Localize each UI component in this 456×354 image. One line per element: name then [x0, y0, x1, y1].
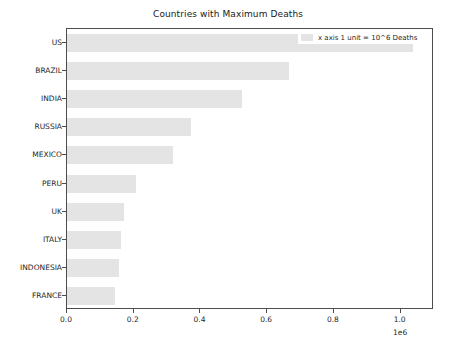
- x-tick-mark: [199, 309, 200, 313]
- legend-swatch-icon: [301, 34, 313, 41]
- y-tick-mark: [62, 42, 66, 43]
- bar-peru: [67, 175, 136, 193]
- bar-row: [67, 287, 432, 305]
- y-tick-mark: [62, 70, 66, 71]
- bar-uk: [67, 203, 124, 221]
- x-tick-mark: [400, 309, 401, 313]
- x-tick-label: 0.4: [179, 315, 219, 324]
- bar-row: [67, 203, 432, 221]
- x-tick-label: 1.0: [380, 315, 420, 324]
- bar-france: [67, 287, 115, 305]
- y-tick-mark: [62, 98, 66, 99]
- bar-row: [67, 62, 432, 80]
- bar-row: [67, 90, 432, 108]
- y-tick-mark: [62, 126, 66, 127]
- x-axis-offset-label: 1e6: [393, 328, 443, 337]
- bar-india: [67, 90, 242, 108]
- x-tick-label: 0.8: [313, 315, 353, 324]
- plot-area: [66, 28, 433, 309]
- x-tick-mark: [66, 309, 67, 313]
- x-tick-mark: [266, 309, 267, 313]
- bar-row: [67, 259, 432, 277]
- y-tick-mark: [62, 267, 66, 268]
- bar-row: [67, 118, 432, 136]
- bar-italy: [67, 231, 121, 249]
- bar-indonesia: [67, 259, 119, 277]
- bar-row: [67, 175, 432, 193]
- page-title: Countries with Maximum Deaths: [0, 9, 456, 19]
- y-tick-label: US: [0, 38, 62, 47]
- y-tick-label: MEXICO: [0, 150, 62, 159]
- y-tick-label: INDONESIA: [0, 263, 62, 272]
- x-tick-label: 0.2: [113, 315, 153, 324]
- y-tick-label: UK: [0, 207, 62, 216]
- legend-entry-label: x axis 1 unit = 10^6 Deaths: [318, 34, 417, 42]
- y-tick-mark: [62, 154, 66, 155]
- x-tick-label: 0.6: [246, 315, 286, 324]
- y-tick-label: PERU: [0, 179, 62, 188]
- y-tick-mark: [62, 211, 66, 212]
- bar-row: [67, 146, 432, 164]
- chart-legend: x axis 1 unit = 10^6 Deaths: [298, 31, 420, 44]
- y-tick-label: RUSSIA: [0, 122, 62, 131]
- y-tick-mark: [62, 239, 66, 240]
- bar-series: [67, 29, 432, 308]
- y-tick-label: INDIA: [0, 94, 62, 103]
- bar-brazil: [67, 62, 289, 80]
- bar-mexico: [67, 146, 173, 164]
- chart-figure: Countries with Maximum Deaths FRANCEINDO…: [0, 0, 456, 354]
- y-tick-label: FRANCE: [0, 291, 62, 300]
- y-tick-label: ITALY: [0, 235, 62, 244]
- y-tick-mark: [62, 295, 66, 296]
- x-tick-mark: [333, 309, 334, 313]
- bar-russia: [67, 118, 191, 136]
- y-tick-mark: [62, 183, 66, 184]
- y-tick-label: BRAZIL: [0, 66, 62, 75]
- x-tick-label: 0.0: [46, 315, 86, 324]
- bar-row: [67, 231, 432, 249]
- x-tick-mark: [133, 309, 134, 313]
